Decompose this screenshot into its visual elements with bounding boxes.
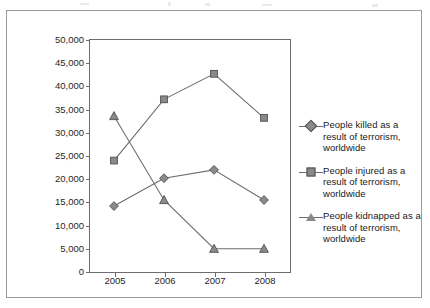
data-point-square	[161, 96, 168, 103]
data-point-square	[111, 157, 118, 164]
y-axis-tick-label: 5,000	[34, 244, 84, 254]
series-line	[114, 116, 264, 249]
legend-item-label: People injured as a result of terrorism,…	[323, 165, 421, 200]
triangle-marker-icon	[299, 212, 323, 224]
x-axis-tick-label: 2006	[154, 276, 175, 286]
x-axis-tick-label: 2007	[204, 276, 225, 286]
y-axis-tick-mark	[86, 272, 90, 273]
y-axis-tick-label: 30,000	[34, 128, 84, 138]
data-point-triangle	[160, 196, 169, 204]
diamond-marker-icon	[299, 121, 323, 133]
series-line	[114, 170, 264, 206]
y-axis-tick-label: 25,000	[34, 151, 84, 161]
line-chart: 50,00045,00040,00035,00030,00025,00020,0…	[7, 11, 423, 299]
legend-item-square[interactable]: People injured as a result of terrorism,…	[299, 165, 421, 200]
x-axis-tick-mark	[115, 272, 116, 277]
x-axis-tick-label: 2005	[104, 276, 125, 286]
legend-item-triangle[interactable]: People kidnapped as a result of terroris…	[299, 210, 421, 245]
y-axis-tick-label: 45,000	[34, 58, 84, 68]
data-point-square	[261, 114, 268, 121]
y-axis-tick-label: 50,000	[34, 35, 84, 45]
y-axis-tick-label: 40,000	[34, 82, 84, 92]
data-point-triangle	[110, 112, 119, 120]
x-axis-tick-mark	[215, 272, 216, 277]
y-axis-tick-label: 10,000	[34, 221, 84, 231]
legend-item-diamond[interactable]: People killed as a result of terrorism, …	[299, 119, 421, 154]
x-axis-tick-label: 2008	[254, 276, 275, 286]
legend-item-label: People killed as a result of terrorism, …	[323, 119, 421, 154]
chart-legend: People killed as a result of terrorism, …	[299, 119, 421, 256]
series-layer	[89, 39, 289, 271]
y-axis-tick-label: 35,000	[34, 105, 84, 115]
y-axis-tick-label: 0	[34, 267, 84, 277]
x-axis-tick-mark	[265, 272, 266, 277]
legend-item-label: People kidnapped as a result of terroris…	[323, 210, 421, 245]
data-point-square	[211, 70, 218, 77]
data-point-diamond	[110, 202, 119, 211]
data-point-diamond	[210, 165, 219, 174]
square-marker-icon	[299, 167, 323, 179]
data-point-diamond	[160, 174, 169, 183]
y-axis-tick-label: 15,000	[34, 198, 84, 208]
x-axis-tick-mark	[165, 272, 166, 277]
figure-frame: 50,00045,00040,00035,00030,00025,00020,0…	[6, 10, 422, 298]
y-axis-tick-label: 20,000	[34, 174, 84, 184]
series-line	[114, 74, 264, 161]
data-point-diamond	[260, 196, 269, 205]
